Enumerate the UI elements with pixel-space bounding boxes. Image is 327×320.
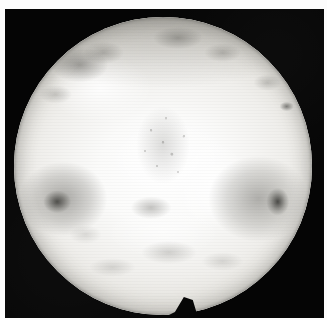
image-canvas [0, 0, 327, 320]
photographic-plate-background [5, 9, 324, 318]
limb-darkening-ring [14, 17, 312, 315]
sphere-disc [14, 17, 312, 315]
spherical-body [14, 17, 312, 315]
